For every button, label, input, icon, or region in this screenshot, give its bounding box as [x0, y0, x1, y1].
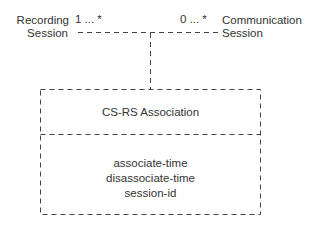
attribute-associate-time: associate-time	[40, 156, 261, 171]
recording-session-label: Recording Session	[13, 14, 69, 40]
association-class-name: CS-RS Association	[40, 106, 261, 119]
left-multiplicity: 1 ... *	[75, 13, 102, 26]
right-multiplicity: 0 ... *	[180, 13, 207, 26]
attribute-session-id: session-id	[40, 186, 261, 201]
association-attributes: associate-time disassociate-time session…	[40, 156, 261, 201]
attribute-disassociate-time: disassociate-time	[40, 171, 261, 186]
communication-session-label: Communication Session	[222, 14, 302, 40]
